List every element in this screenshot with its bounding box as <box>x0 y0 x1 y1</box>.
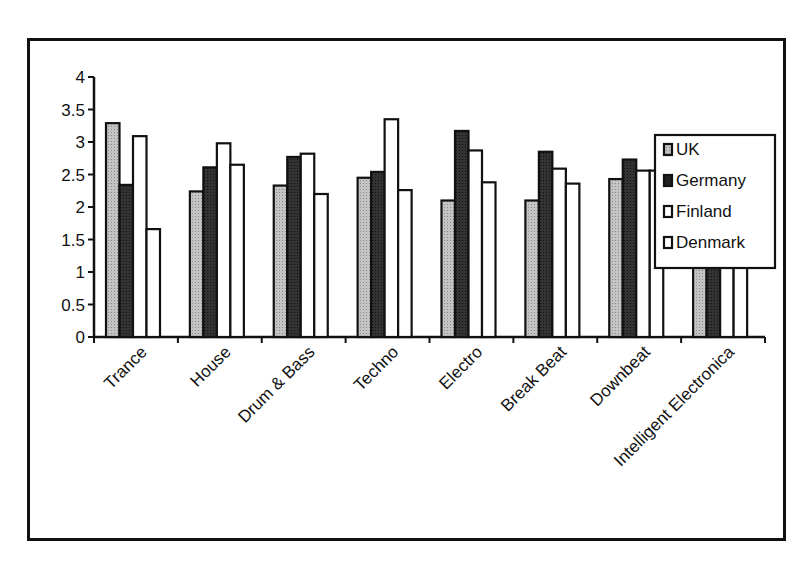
bar <box>314 194 328 337</box>
legend: UKGermanyFinlandDenmark <box>655 135 775 268</box>
bar <box>442 201 456 338</box>
legend-swatch-icon <box>664 206 672 217</box>
x-category-label: Break Beat <box>497 342 570 415</box>
x-category-label: House <box>186 342 234 390</box>
bar <box>287 157 301 337</box>
y-tick-label: 0.5 <box>61 296 85 315</box>
y-tick-label: 4 <box>76 68 85 87</box>
y-tick-label: 1.5 <box>61 231 85 250</box>
bar-group <box>274 154 328 337</box>
legend-label: Germany <box>676 171 746 190</box>
bar <box>385 119 399 337</box>
y-tick-label: 2 <box>76 198 85 217</box>
bar-chart: 00.511.522.533.54TranceHouseDrum & BassT… <box>0 0 808 568</box>
y-tick-label: 3.5 <box>61 101 85 120</box>
bar <box>190 191 204 337</box>
x-category-label: Drum & Bass <box>234 342 318 426</box>
bar-group <box>525 152 579 337</box>
bar-group <box>358 119 412 337</box>
bar <box>539 152 553 337</box>
y-tick-label: 0 <box>76 328 85 347</box>
legend-swatch-icon <box>664 237 672 248</box>
bar <box>301 154 315 337</box>
legend-swatch-icon <box>664 144 672 155</box>
legend-label: UK <box>676 140 700 159</box>
x-category-label: Techno <box>350 342 402 394</box>
legend-label: Denmark <box>676 233 745 252</box>
x-category-label: Electro <box>435 342 486 393</box>
bar-group <box>190 143 244 337</box>
bar <box>455 131 469 337</box>
legend-label: Finland <box>676 202 732 221</box>
bar <box>371 172 385 337</box>
x-category-label: Trance <box>100 342 150 392</box>
bar-group <box>442 131 496 337</box>
bar <box>482 182 496 337</box>
bar <box>469 150 483 337</box>
y-tick-label: 2.5 <box>61 166 85 185</box>
bar <box>358 178 372 337</box>
y-tick-label: 3 <box>76 133 85 152</box>
bar <box>398 190 412 337</box>
bar <box>147 229 161 337</box>
bar <box>274 186 288 337</box>
bar <box>636 171 650 337</box>
bar <box>203 167 217 337</box>
bar <box>566 184 580 337</box>
bar <box>217 143 231 337</box>
bar <box>525 201 539 338</box>
bar <box>623 160 637 337</box>
bar <box>230 165 244 337</box>
bar <box>133 136 147 337</box>
y-tick-label: 1 <box>76 263 85 282</box>
bar <box>552 169 566 337</box>
x-category-label: Downbeat <box>586 342 654 410</box>
bar <box>106 123 120 337</box>
bar <box>120 185 134 337</box>
bar-group <box>106 123 160 337</box>
legend-swatch-icon <box>664 175 672 186</box>
bar <box>609 179 623 337</box>
